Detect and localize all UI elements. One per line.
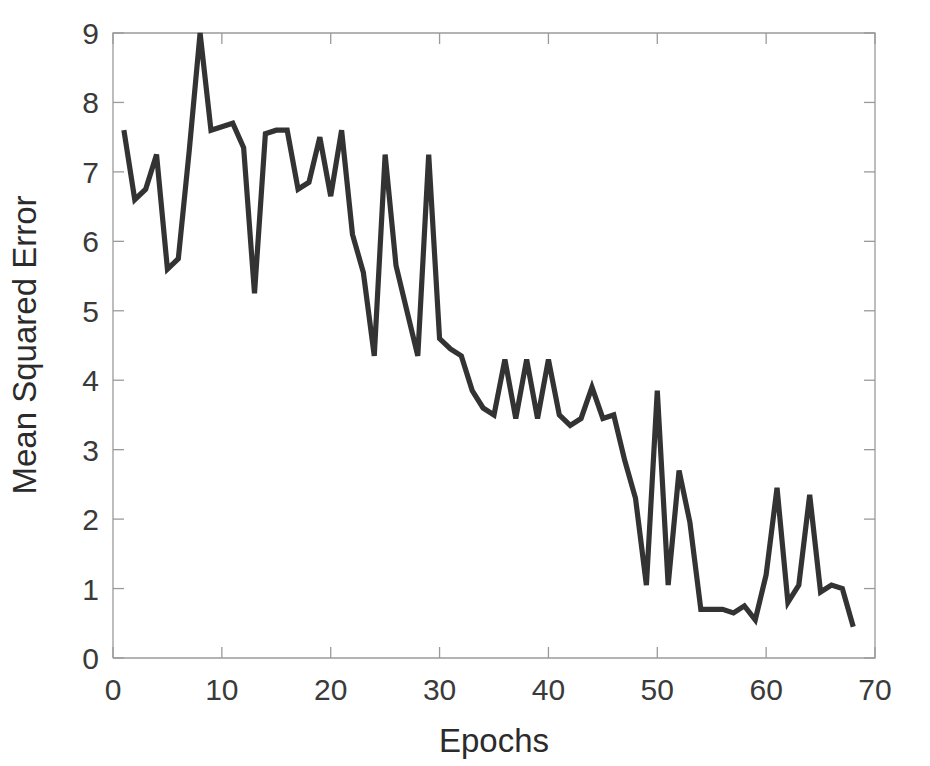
y-tick-label: 7 bbox=[82, 156, 99, 189]
y-tick-label: 3 bbox=[82, 434, 99, 467]
y-axis-title: Mean Squared Error bbox=[6, 195, 43, 494]
chart-canvas: 0123456789 010203040506070 Epochs Mean S… bbox=[0, 0, 930, 766]
y-tick-label: 6 bbox=[82, 225, 99, 258]
x-tick-label: 30 bbox=[423, 673, 456, 706]
y-tick-label: 0 bbox=[82, 642, 99, 675]
y-tick-label: 5 bbox=[82, 295, 99, 328]
x-tick-label: 10 bbox=[205, 673, 238, 706]
data-series-line bbox=[124, 33, 853, 627]
x-tick-label: 60 bbox=[749, 673, 782, 706]
x-tick-label: 70 bbox=[858, 673, 891, 706]
y-axis-tick-labels: 0123456789 bbox=[82, 17, 99, 675]
x-tick-label: 40 bbox=[532, 673, 565, 706]
x-tick-label: 20 bbox=[314, 673, 347, 706]
y-tick-label: 4 bbox=[82, 364, 99, 397]
x-tick-label: 0 bbox=[105, 673, 122, 706]
y-tick-label: 2 bbox=[82, 503, 99, 536]
y-tick-label: 1 bbox=[82, 573, 99, 606]
y-tick-label: 8 bbox=[82, 86, 99, 119]
x-axis-tick-labels: 010203040506070 bbox=[105, 673, 892, 706]
x-tick-label: 50 bbox=[641, 673, 674, 706]
chart-figure: 0123456789 010203040506070 Epochs Mean S… bbox=[0, 0, 930, 766]
x-axis-title: Epochs bbox=[439, 722, 549, 759]
y-tick-label: 9 bbox=[82, 17, 99, 50]
